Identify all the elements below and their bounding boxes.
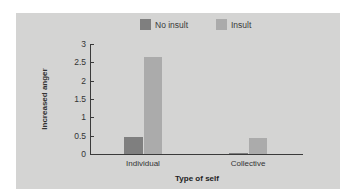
- x-category-collective: Collective: [208, 159, 288, 168]
- legend-swatch-insult: [216, 19, 227, 30]
- legend-item-insult: Insult: [216, 19, 251, 30]
- y-tick-mark: [90, 81, 94, 82]
- legend: No insult Insult: [16, 19, 340, 33]
- bar-individual-no-insult: [124, 137, 143, 154]
- y-tick-2.5: 2.5: [66, 57, 86, 67]
- x-category-individual: Individual: [103, 159, 183, 168]
- bar-individual-insult: [144, 57, 162, 154]
- y-tick-1: 1: [66, 112, 86, 122]
- legend-label-no-insult: No insult: [155, 20, 188, 30]
- legend-label-insult: Insult: [231, 20, 251, 30]
- bar-collective-no-insult: [229, 153, 248, 154]
- y-tick-mark: [90, 136, 94, 137]
- y-tick-2: 2: [66, 76, 86, 86]
- legend-swatch-no-insult: [140, 19, 151, 30]
- y-tick-3: 3: [66, 39, 86, 49]
- y-axis-label: Increased anger: [40, 68, 49, 129]
- y-tick-mark: [90, 117, 94, 118]
- y-tick-0.5: 0.5: [66, 131, 86, 141]
- x-axis-line: [90, 154, 303, 155]
- legend-item-no-insult: No insult: [140, 19, 188, 30]
- bar-collective-insult: [249, 138, 267, 154]
- y-tick-1.5: 1.5: [66, 94, 86, 104]
- y-tick-0: 0: [66, 149, 86, 159]
- y-tick-mark: [90, 99, 94, 100]
- x-axis-label: Type of self: [147, 174, 247, 183]
- y-tick-mark: [90, 62, 94, 63]
- y-tick-mark: [90, 44, 94, 45]
